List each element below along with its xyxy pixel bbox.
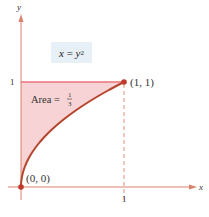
y-axis-arrow-icon [19,14,24,22]
equation-label: x = y2 [51,42,92,63]
x-tick-label: 1 [122,194,127,204]
equation-lhs: x [59,47,64,59]
area-label: Area = [31,94,60,105]
x-axis-label: x [198,182,203,192]
y-axis-label: y [16,2,21,12]
area-fraction-numerator: 1 [68,91,72,99]
point-end-label: (1, 1) [130,76,154,89]
point-end [121,79,127,85]
x-axis-arrow-icon [189,185,197,190]
equation-exponent: 2 [81,49,85,57]
y-tick-label: 1 [10,77,15,87]
equation-eq: = [67,47,73,59]
chart-canvas: y x 1 1 (1, 1) (0, 0) Area = 1 3 [0,0,209,217]
area-fraction-denominator: 3 [68,100,72,108]
point-origin-label: (0, 0) [26,172,50,185]
point-origin [18,184,24,190]
